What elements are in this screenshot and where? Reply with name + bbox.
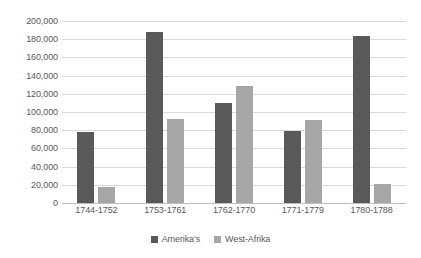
- cropped-title-remnant: [0, 0, 421, 10]
- bar: [146, 32, 163, 203]
- bar: [305, 120, 322, 203]
- bar: [215, 103, 232, 203]
- legend-swatch-icon: [151, 236, 158, 243]
- y-axis-tick-label: 140,000: [2, 71, 58, 81]
- x-axis-tick-label: 1771-1779: [268, 205, 337, 215]
- bar: [98, 187, 115, 203]
- x-axis-tick-label: 1762-1770: [200, 205, 269, 215]
- y-axis-tick-label: 100,000: [2, 107, 58, 117]
- x-axis: 1744-17521753-17611762-17701771-17791780…: [62, 205, 406, 223]
- y-axis-tick-label: 200,000: [2, 16, 58, 26]
- x-axis-tick-label: 1780-1788: [337, 205, 406, 215]
- legend-item[interactable]: West-Afrika: [214, 234, 270, 244]
- bars-layer: [62, 21, 406, 203]
- y-axis-tick-label: 80,000: [2, 125, 58, 135]
- axis-baseline: [62, 203, 406, 204]
- bar: [284, 131, 301, 203]
- y-axis-tick-label: 0: [2, 198, 58, 208]
- bar: [236, 86, 253, 203]
- bar-group: [62, 21, 131, 203]
- bar-group: [131, 21, 200, 203]
- bar-group: [268, 21, 337, 203]
- bar: [77, 132, 94, 203]
- bar-group: [200, 21, 269, 203]
- y-axis-tick-label: 160,000: [2, 52, 58, 62]
- legend-item[interactable]: Amerika's: [151, 234, 200, 244]
- bar: [353, 36, 370, 203]
- y-axis-tick-label: 120,000: [2, 89, 58, 99]
- bar-chart: 200,000180,000160,000140,000120,000100,0…: [0, 0, 421, 258]
- legend: Amerika'sWest-Afrika: [0, 234, 421, 244]
- x-axis-tick-label: 1753-1761: [131, 205, 200, 215]
- y-axis-tick-label: 180,000: [2, 34, 58, 44]
- x-axis-tick-label: 1744-1752: [62, 205, 131, 215]
- legend-label: West-Afrika: [225, 234, 270, 244]
- bar-group: [337, 21, 406, 203]
- legend-swatch-icon: [214, 236, 221, 243]
- bar: [374, 184, 391, 203]
- y-axis-tick-label: 20,000: [2, 180, 58, 190]
- y-axis: 200,000180,000160,000140,000120,000100,0…: [0, 21, 58, 203]
- y-axis-tick-label: 60,000: [2, 143, 58, 153]
- y-axis-tick-label: 40,000: [2, 162, 58, 172]
- bar: [167, 119, 184, 203]
- legend-label: Amerika's: [162, 234, 200, 244]
